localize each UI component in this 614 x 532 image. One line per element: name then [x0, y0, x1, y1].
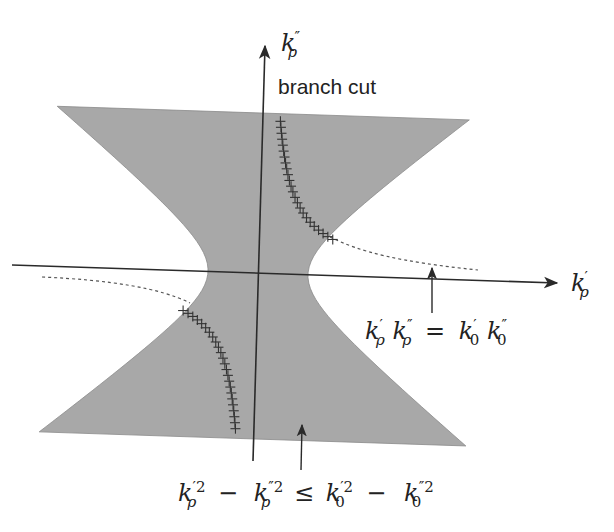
vertical-axis-label: k″ρ: [281, 28, 297, 61]
dashed-curve-right: [330, 237, 478, 270]
arrow-to-shaded-region: [301, 425, 302, 470]
dashed-curve-left: [42, 277, 190, 303]
region-inequality: k′2ρ − k″2ρ ≤ k′20 − k″20: [178, 478, 421, 511]
branch-cut-label: branch cut: [278, 75, 376, 99]
horizontal-axis-label: k′ρ: [571, 268, 589, 301]
hyperbola-equation: k′ρ k″ρ = k′0 k″0: [365, 316, 507, 349]
